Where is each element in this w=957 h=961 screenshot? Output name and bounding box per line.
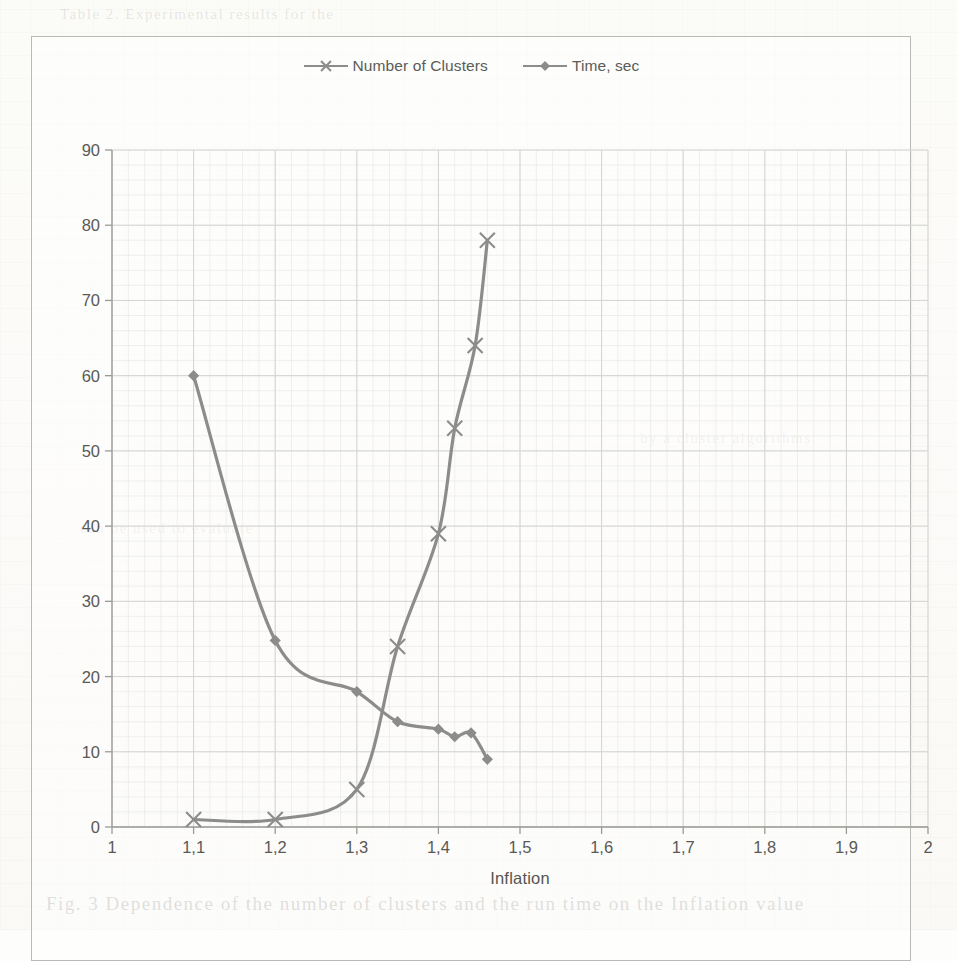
x-tick-label: 2 — [923, 838, 932, 857]
x-axis-title: Inflation — [112, 869, 928, 888]
y-tick-label: 10 — [82, 742, 100, 761]
y-tick-label: 90 — [82, 141, 100, 160]
legend-label-number-of-clusters: Number of Clusters — [353, 57, 488, 75]
y-tick-label: 80 — [82, 216, 100, 235]
x-tick-label: 1,8 — [753, 838, 776, 857]
x-tick-label: 1,6 — [590, 838, 613, 857]
y-tick-label: 20 — [82, 667, 100, 686]
chart-legend: Number of Clusters Time, sec — [32, 57, 910, 75]
plot-area: 0102030405060708090 11,11,21,31,41,51,61… — [112, 150, 928, 827]
chart-svg — [112, 150, 928, 827]
chart-plot-region: Number of Clusters Time, sec 01020304050… — [32, 37, 910, 960]
grid-major — [112, 150, 928, 827]
y-tick-label: 40 — [82, 517, 100, 536]
ghost-bleed-line: Table 2. Experimental results for the — [60, 6, 334, 23]
x-tick-label: 1,2 — [264, 838, 287, 857]
x-tick-label: 1,3 — [345, 838, 368, 857]
y-tick-label: 50 — [82, 441, 100, 460]
x-marker-icon — [303, 58, 349, 74]
diamond-marker-icon — [522, 58, 568, 74]
y-tick-label: 0 — [91, 818, 100, 837]
x-tick-label: 1,7 — [672, 838, 695, 857]
y-tick-label: 60 — [82, 366, 100, 385]
legend-label-time-sec: Time, sec — [572, 57, 640, 75]
y-tick-label: 70 — [82, 291, 100, 310]
x-tick-label: 1,4 — [427, 838, 450, 857]
chart-container: Number of Clusters Time, sec 01020304050… — [31, 36, 911, 961]
x-tick-label: 1 — [107, 838, 116, 857]
x-tick-label: 1,5 — [509, 838, 532, 857]
legend-item-time-sec[interactable]: Time, sec — [522, 57, 640, 75]
y-tick-label: 30 — [82, 592, 100, 611]
x-tick-label: 1,9 — [835, 838, 858, 857]
x-tick-label: 1,1 — [182, 838, 205, 857]
legend-item-number-of-clusters[interactable]: Number of Clusters — [303, 57, 488, 75]
axis-lines — [105, 150, 928, 834]
